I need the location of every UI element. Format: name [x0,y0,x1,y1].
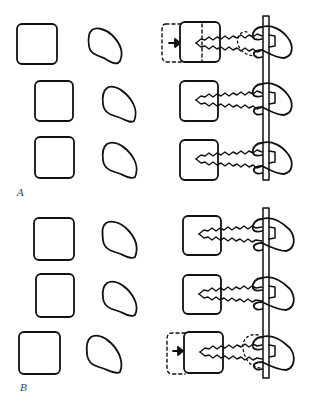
panel-b-free-cells [19,218,137,374]
square-cell [180,140,218,180]
arrow-head [178,347,183,355]
panel-a-attached-cells [162,16,292,180]
bean-cell [253,142,292,174]
screw-head [269,286,275,298]
attachment-row [183,275,294,314]
screw-head [269,345,275,357]
attachment-row-displaced [162,22,292,62]
bean-cell [253,277,294,310]
screw-shank [196,159,262,168]
bean-cell [253,336,294,370]
bean-cell [102,222,136,258]
panel-b-attached-cells [167,208,294,378]
bean-cell [253,26,292,58]
attachment-row [180,81,292,121]
screw-shank [200,352,262,360]
square-cell [17,24,57,64]
square-cell [35,137,74,178]
cell-adhesion-diagram [0,0,316,406]
square-cell [19,332,60,374]
screw-head [269,227,275,239]
screw-shank [196,43,262,52]
square-cell [36,274,74,317]
screw-shank [199,294,262,302]
square-cell [180,81,218,121]
screw-shank [199,234,262,242]
square-cell [35,81,73,121]
screw-shank [196,100,262,109]
bean-cell [103,87,136,122]
square-cell [184,332,223,373]
panel-a-free-cells [17,24,137,178]
panel-label-b: B [20,382,27,393]
screw-head [269,92,275,104]
square-cell [183,216,221,255]
square-cell [34,218,74,260]
bean-cell [103,282,137,316]
bean-cell [103,143,137,178]
attachment-row [180,140,292,180]
square-cell [180,22,220,62]
substrate-plate [263,208,269,378]
screw-head [269,151,275,163]
panel-label-a: A [17,187,24,198]
square-cell [183,275,221,314]
screw-head [269,35,275,47]
attachment-row-displaced [167,332,294,374]
substrate-plate [263,16,269,180]
bean-cell [253,83,292,115]
bean-cell [88,28,121,63]
bean-cell [87,336,122,373]
attachment-row [183,216,294,255]
bean-cell [253,218,294,251]
ghost-cell-outline [167,333,185,374]
